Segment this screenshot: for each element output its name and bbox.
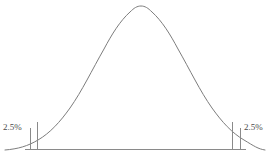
bell-curve-figure-page: 2.5% 2.5% [0, 0, 269, 161]
right-tail-percentage-label: 2.5% [244, 122, 263, 132]
normal-distribution-chart [0, 0, 269, 161]
bell-curve-path [5, 6, 265, 150]
left-tail-percentage-label: 2.5% [3, 122, 22, 132]
